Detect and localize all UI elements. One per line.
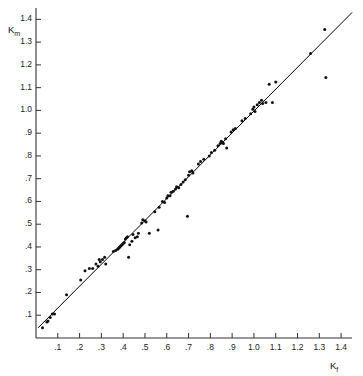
data-point bbox=[65, 293, 68, 296]
data-point bbox=[99, 260, 102, 263]
data-point bbox=[88, 267, 91, 270]
data-point bbox=[140, 222, 143, 225]
data-point bbox=[202, 158, 205, 161]
data-point bbox=[224, 137, 227, 140]
data-point bbox=[145, 220, 148, 223]
y-tick-label: 1.4 bbox=[2, 14, 32, 23]
data-point bbox=[264, 101, 267, 104]
data-point bbox=[101, 258, 104, 261]
y-axis-ticks bbox=[36, 19, 41, 315]
y-tick-label: 1.3 bbox=[2, 37, 32, 46]
data-point bbox=[49, 316, 52, 319]
data-point bbox=[249, 112, 252, 115]
data-point bbox=[271, 101, 274, 104]
data-point bbox=[268, 83, 271, 86]
x-axis-title-subscript: f bbox=[336, 366, 338, 373]
y-tick-label: .7 bbox=[2, 174, 32, 183]
data-point bbox=[158, 206, 161, 209]
data-point bbox=[41, 326, 44, 329]
y-tick-label: 1.1 bbox=[2, 83, 32, 92]
y-axis-title: Km bbox=[8, 24, 20, 37]
data-point bbox=[163, 201, 166, 204]
data-point bbox=[187, 174, 190, 177]
y-tick-label: .2 bbox=[2, 287, 32, 296]
data-point bbox=[234, 127, 237, 130]
data-point bbox=[258, 101, 261, 104]
data-point bbox=[148, 232, 151, 235]
data-point bbox=[123, 241, 126, 244]
data-point bbox=[103, 256, 106, 259]
data-point bbox=[157, 228, 160, 231]
data-point bbox=[210, 151, 213, 154]
scatter-plot-figure: .1.2.3.4.5.6.7.8.91.01.11.21.31.4 .1.2.3… bbox=[0, 0, 363, 376]
data-point bbox=[153, 210, 156, 213]
data-point bbox=[131, 233, 134, 236]
data-points bbox=[41, 28, 327, 329]
data-point bbox=[127, 256, 130, 259]
data-point bbox=[53, 313, 56, 316]
data-point bbox=[137, 232, 140, 235]
data-point bbox=[230, 131, 233, 134]
data-point bbox=[79, 278, 82, 281]
data-point bbox=[208, 154, 211, 157]
data-point bbox=[136, 235, 139, 238]
data-point bbox=[169, 194, 172, 197]
data-point bbox=[130, 240, 133, 243]
data-point bbox=[225, 146, 228, 149]
y-tick-label: .3 bbox=[2, 265, 32, 274]
y-tick-label: .5 bbox=[2, 219, 32, 228]
data-point bbox=[240, 119, 243, 122]
regression-line-path bbox=[38, 13, 352, 328]
data-point bbox=[126, 235, 129, 238]
y-tick-label: 1.0 bbox=[2, 105, 32, 114]
y-tick-label: .9 bbox=[2, 128, 32, 137]
data-point bbox=[199, 160, 202, 163]
data-point bbox=[252, 106, 255, 109]
data-point bbox=[84, 269, 87, 272]
y-tick-label: .1 bbox=[2, 310, 32, 319]
data-point bbox=[177, 186, 180, 189]
data-point bbox=[186, 215, 189, 218]
y-tick-label: .8 bbox=[2, 151, 32, 160]
data-point bbox=[184, 178, 187, 181]
data-point bbox=[179, 183, 182, 186]
data-point bbox=[324, 76, 327, 79]
x-axis-title: Kf bbox=[330, 360, 338, 373]
x-axis-ticks bbox=[58, 333, 341, 338]
data-point bbox=[260, 99, 263, 102]
y-tick-label: .6 bbox=[2, 196, 32, 205]
data-point bbox=[172, 190, 175, 193]
y-tick-label: 1.2 bbox=[2, 60, 32, 69]
regression-line bbox=[38, 13, 352, 328]
data-point bbox=[94, 263, 97, 266]
data-point bbox=[213, 149, 216, 152]
data-point bbox=[197, 162, 200, 165]
y-axis-title-subscript: m bbox=[14, 30, 20, 37]
data-point bbox=[256, 103, 259, 106]
data-point bbox=[244, 117, 247, 120]
x-tick-label: 1.4 bbox=[327, 343, 355, 352]
data-point bbox=[309, 52, 312, 55]
data-point bbox=[222, 142, 225, 145]
data-point bbox=[91, 267, 94, 270]
data-point bbox=[182, 181, 185, 184]
data-point bbox=[128, 243, 131, 246]
data-point bbox=[191, 172, 194, 175]
data-point bbox=[323, 28, 326, 31]
data-point bbox=[254, 110, 257, 113]
data-point bbox=[274, 80, 277, 83]
data-point bbox=[261, 102, 264, 105]
y-tick-label: .4 bbox=[2, 242, 32, 251]
data-point bbox=[104, 263, 107, 266]
plot-canvas bbox=[0, 0, 363, 376]
data-point bbox=[216, 144, 219, 147]
data-point bbox=[97, 265, 100, 268]
data-point bbox=[46, 319, 49, 322]
